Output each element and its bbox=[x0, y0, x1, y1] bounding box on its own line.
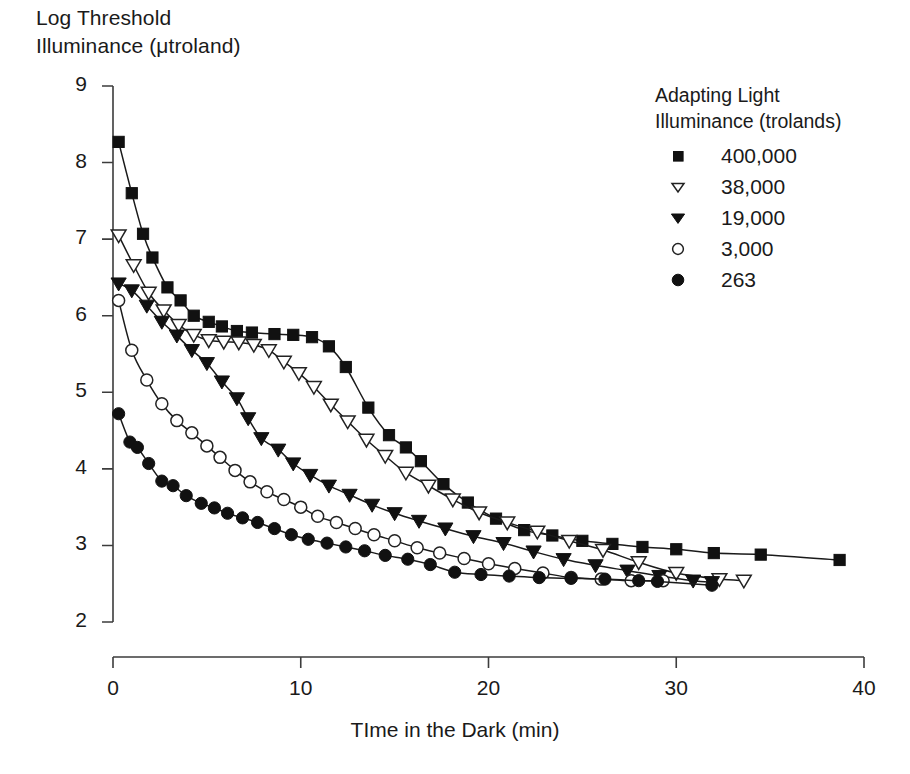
data-point bbox=[503, 570, 515, 582]
open-triangle-down-marker-icon bbox=[655, 178, 701, 196]
data-point bbox=[708, 547, 719, 558]
data-point bbox=[303, 469, 318, 482]
series-line bbox=[119, 284, 712, 583]
data-point bbox=[330, 516, 342, 528]
data-point bbox=[285, 529, 297, 541]
data-point bbox=[156, 475, 168, 487]
legend-label-38000: 38,000 bbox=[701, 174, 785, 200]
legend-item-263[interactable]: 263 bbox=[655, 264, 841, 295]
data-point bbox=[137, 228, 148, 239]
data-point bbox=[156, 398, 168, 410]
legend-item-38000[interactable]: 38,000 bbox=[655, 171, 841, 202]
data-point bbox=[126, 260, 141, 273]
data-point bbox=[475, 568, 487, 580]
data-point bbox=[349, 523, 361, 535]
y-tick-label-6: 6 bbox=[61, 302, 87, 326]
data-point bbox=[323, 341, 334, 352]
data-point bbox=[208, 502, 220, 514]
y-axis-label: Log Threshold Illuminance (μtroland) bbox=[36, 4, 241, 60]
y-tick-label-4: 4 bbox=[61, 455, 87, 479]
data-point bbox=[398, 467, 413, 480]
data-point bbox=[445, 494, 460, 507]
data-point bbox=[449, 566, 461, 578]
data-point bbox=[141, 287, 156, 300]
data-point bbox=[340, 541, 352, 553]
x-tick-label-40: 40 bbox=[844, 676, 884, 700]
data-point bbox=[533, 571, 545, 583]
y-axis bbox=[102, 86, 113, 622]
data-point bbox=[131, 441, 143, 453]
data-point bbox=[278, 493, 290, 505]
data-point bbox=[358, 545, 370, 557]
series-line bbox=[119, 235, 744, 580]
data-point bbox=[736, 575, 751, 588]
y-tick-label-9: 9 bbox=[61, 72, 87, 96]
data-point bbox=[229, 464, 241, 476]
y-tick-label-8: 8 bbox=[61, 149, 87, 173]
y-tick-label-7: 7 bbox=[61, 225, 87, 249]
data-point bbox=[188, 310, 199, 321]
data-point bbox=[171, 415, 183, 427]
x-axis bbox=[113, 657, 864, 668]
data-point bbox=[167, 480, 179, 492]
data-point bbox=[261, 345, 276, 358]
data-point bbox=[415, 456, 426, 467]
data-point bbox=[268, 522, 280, 534]
data-point bbox=[126, 188, 137, 199]
data-point bbox=[143, 457, 155, 469]
data-point bbox=[236, 512, 248, 524]
data-point bbox=[229, 393, 244, 406]
x-tick-label-0: 0 bbox=[93, 676, 133, 700]
legend-title-line-1: Adapting Light bbox=[655, 82, 841, 108]
x-axis-label: TIme in the Dark (min) bbox=[0, 718, 910, 742]
legend-title-line-2: Illuminance (trolands) bbox=[655, 108, 841, 134]
data-point bbox=[288, 329, 299, 340]
x-tick-label-30: 30 bbox=[656, 676, 696, 700]
data-point bbox=[203, 316, 214, 327]
legend-item-400000[interactable]: 400,000 bbox=[655, 140, 841, 171]
data-point bbox=[434, 547, 446, 559]
data-point bbox=[402, 553, 414, 565]
data-point bbox=[269, 328, 280, 339]
data-point bbox=[113, 136, 124, 147]
y-tick-label-2: 2 bbox=[61, 608, 87, 632]
data-point bbox=[321, 480, 336, 493]
legend-title: Adapting Light Illuminance (trolands) bbox=[655, 82, 841, 134]
data-point bbox=[201, 440, 213, 452]
data-point bbox=[162, 282, 173, 293]
data-point bbox=[379, 549, 391, 561]
legend-label-400000: 400,000 bbox=[701, 143, 797, 169]
data-point bbox=[302, 533, 314, 545]
data-point bbox=[755, 549, 766, 560]
data-point bbox=[141, 374, 153, 386]
y-tick-label-5: 5 bbox=[61, 378, 87, 402]
data-point bbox=[261, 486, 273, 498]
legend-item-19000[interactable]: 19,000 bbox=[655, 202, 841, 233]
data-point bbox=[231, 325, 242, 336]
data-point bbox=[389, 535, 401, 547]
filled-circle-marker-icon bbox=[655, 271, 701, 289]
data-point bbox=[651, 575, 663, 587]
data-point bbox=[421, 480, 436, 493]
data-point bbox=[364, 499, 379, 512]
data-point bbox=[637, 541, 648, 552]
legend-label-263: 263 bbox=[701, 267, 756, 293]
data-point bbox=[363, 402, 374, 413]
data-point bbox=[295, 501, 307, 513]
open-circle-marker-icon bbox=[655, 240, 701, 258]
data-point bbox=[472, 507, 487, 520]
data-point bbox=[321, 537, 333, 549]
data-point bbox=[126, 344, 138, 356]
data-point bbox=[387, 508, 402, 521]
data-point bbox=[221, 507, 233, 519]
legend: Adapting Light Illuminance (trolands) 40… bbox=[655, 82, 841, 295]
data-point bbox=[276, 356, 291, 369]
dark-adaptation-chart: Log Threshold Illuminance (μtroland) Ada… bbox=[0, 0, 910, 774]
data-point bbox=[113, 294, 125, 306]
filled-triangle-down-marker-icon bbox=[655, 209, 701, 227]
legend-item-3000[interactable]: 3,000 bbox=[655, 233, 841, 264]
data-point bbox=[241, 413, 256, 426]
y-tick-label-3: 3 bbox=[61, 531, 87, 555]
filled-square-marker-icon bbox=[655, 147, 701, 165]
data-point bbox=[458, 552, 470, 564]
